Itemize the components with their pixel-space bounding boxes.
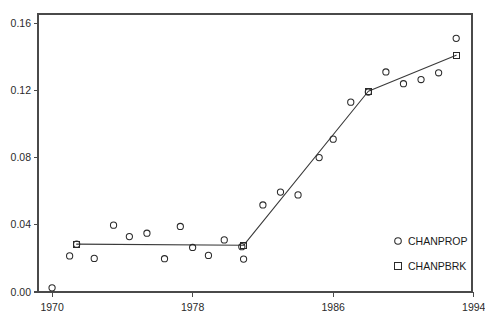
plot-area-border: [38, 14, 472, 292]
y-tick-label: 0.00: [11, 286, 32, 298]
data-point-chanprop: [49, 285, 55, 291]
y-tick-label: 0.12: [11, 84, 32, 96]
legend-marker-circle: [395, 238, 402, 245]
y-tick-label: 0.16: [11, 17, 32, 29]
data-point-chanprop: [91, 255, 97, 261]
data-point-chanprop: [110, 222, 116, 228]
legend-label: CHANPBRK: [408, 260, 466, 272]
scatter-plot-canvas: 0.000.040.080.120.16 1970197819861994 CH…: [0, 0, 485, 330]
chart-legend: CHANPROPCHANPBRK: [395, 235, 468, 272]
plot-frame: [38, 14, 472, 292]
y-tick-label: 0.04: [11, 218, 32, 230]
data-point-chanprop: [383, 69, 389, 75]
data-point-chanprop: [260, 202, 266, 208]
x-tick-label: 1970: [40, 301, 64, 313]
data-point-chanprop: [295, 192, 301, 198]
data-point-chanprop: [67, 253, 73, 259]
fit-polyline: [77, 55, 457, 245]
data-point-chanprop: [418, 76, 424, 82]
data-point-chanprop: [239, 244, 245, 250]
data-point-chanprop: [161, 256, 167, 262]
data-point-chanprop: [240, 256, 246, 262]
data-point-chanprop: [221, 237, 227, 243]
data-point-chanprop: [144, 230, 150, 236]
y-tick-label: 0.08: [11, 151, 32, 163]
data-point-chanprop: [330, 136, 336, 142]
data-point-chanprop: [400, 81, 406, 87]
x-axis: 1970197819861994: [40, 292, 485, 313]
data-point-chanprop: [436, 70, 442, 76]
y-axis: 0.000.040.080.120.16: [11, 17, 38, 298]
x-tick-label: 1986: [322, 301, 346, 313]
data-point-chanprop: [126, 233, 132, 239]
x-tick-label: 1978: [181, 301, 205, 313]
legend-label: CHANPROP: [408, 235, 468, 247]
data-point-chanprop: [453, 35, 459, 41]
data-point-chanprop: [177, 223, 183, 229]
chanprop-data-points: [49, 35, 459, 291]
data-point-chanprop: [205, 252, 211, 258]
data-point-chanprop: [348, 99, 354, 105]
x-tick-label: 1994: [462, 301, 485, 313]
chart-figure: 0.000.040.080.120.16 1970197819861994 CH…: [0, 0, 485, 330]
legend-marker-square: [395, 263, 402, 270]
data-point-chanprop: [277, 189, 283, 195]
chanpbrk-fit-line: [77, 55, 457, 245]
data-point-chanprop: [316, 155, 322, 161]
